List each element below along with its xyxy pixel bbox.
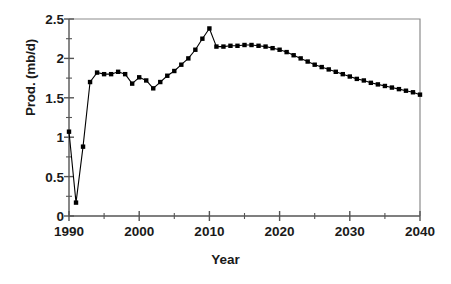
- data-point: [235, 44, 239, 48]
- data-point: [137, 75, 141, 79]
- x-tick-label: 1990: [54, 224, 84, 239]
- x-tick-label: 2020: [265, 224, 295, 239]
- data-point: [186, 56, 190, 60]
- x-tick-label: 2030: [335, 224, 365, 239]
- data-point: [88, 80, 92, 84]
- data-point: [362, 78, 366, 82]
- data-point: [334, 70, 338, 74]
- data-point: [390, 85, 394, 89]
- y-tick-label: 0: [56, 209, 64, 224]
- data-point: [320, 65, 324, 69]
- data-point: [376, 82, 380, 86]
- y-tick-label: 2.5: [45, 12, 64, 27]
- data-point: [221, 44, 225, 48]
- y-tick-label: 0.5: [45, 169, 64, 184]
- data-point: [404, 89, 408, 93]
- production-forecast-chart: 00.511.522.5 Prod. (mb/d) 19902000201020…: [0, 0, 451, 284]
- data-point: [313, 63, 317, 67]
- data-point: [242, 43, 246, 47]
- data-point: [74, 200, 78, 204]
- data-point: [355, 77, 359, 81]
- y-tick-label: 2: [56, 51, 64, 66]
- data-point: [291, 53, 295, 57]
- y-axis-title: Prod. (mb/d): [23, 18, 38, 138]
- data-series-layer: [67, 26, 422, 205]
- data-point: [193, 48, 197, 52]
- data-point: [256, 44, 260, 48]
- x-tick-label: 2000: [124, 224, 154, 239]
- data-point: [249, 43, 253, 47]
- data-point: [270, 46, 274, 50]
- x-tick-label: 2010: [194, 224, 224, 239]
- data-point: [67, 129, 71, 133]
- data-point: [383, 84, 387, 88]
- data-point: [263, 44, 267, 48]
- plot-area: [0, 0, 451, 284]
- data-point: [397, 87, 401, 91]
- data-point: [179, 63, 183, 67]
- data-point: [81, 144, 85, 148]
- data-point: [165, 74, 169, 78]
- data-point: [158, 80, 162, 84]
- data-point: [284, 50, 288, 54]
- data-point: [109, 72, 113, 76]
- data-point: [130, 81, 134, 85]
- data-point: [144, 78, 148, 82]
- data-point: [116, 70, 120, 74]
- data-point: [298, 56, 302, 60]
- data-point: [123, 72, 127, 76]
- data-point: [207, 26, 211, 30]
- data-point: [369, 81, 373, 85]
- data-point: [228, 44, 232, 48]
- data-point: [95, 70, 99, 74]
- data-point: [411, 90, 415, 94]
- data-point: [348, 74, 352, 78]
- x-tick-label: 2040: [405, 224, 435, 239]
- data-point: [102, 72, 106, 76]
- x-axis-title: Year: [0, 252, 451, 267]
- y-tick-label: 1.5: [45, 90, 64, 105]
- data-point: [214, 44, 218, 48]
- data-point: [418, 92, 422, 96]
- data-point: [172, 69, 176, 73]
- data-point: [327, 67, 331, 71]
- axes-layer: [64, 19, 420, 221]
- data-point: [305, 59, 309, 63]
- data-point: [151, 86, 155, 90]
- data-point: [277, 48, 281, 52]
- data-point: [341, 72, 345, 76]
- y-tick-label: 1: [56, 130, 64, 145]
- data-point: [200, 37, 204, 41]
